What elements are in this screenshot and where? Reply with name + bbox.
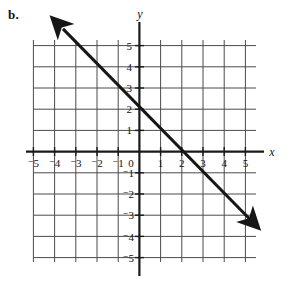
x-tick-label: 5	[243, 157, 249, 169]
x-axis-label: x	[268, 145, 275, 159]
x-tick-label: 4	[221, 157, 227, 169]
x-tick-label: ⁻3	[70, 157, 82, 169]
y-tick-label: ⁻5	[123, 252, 135, 264]
y-tick-label: ⁻4	[123, 231, 135, 243]
y-tick-label: ⁻1	[123, 167, 134, 179]
y-tick-label: ⁻3	[123, 209, 135, 221]
coordinate-plane-svg: ⁻5 ⁻4 ⁻3 ⁻2 ⁻1 1 2 3 4 5 0 5 4 3 2 1 ⁻1 …	[0, 0, 294, 288]
x-tick-label: 3	[200, 157, 206, 169]
x-tick-label: ⁻2	[91, 157, 102, 169]
y-tick-label: 5	[127, 40, 133, 52]
y-tick-label: 1	[127, 124, 133, 136]
part-label: b.	[8, 8, 19, 22]
x-tick-label: 2	[179, 157, 185, 169]
x-tick-labels: ⁻5 ⁻4 ⁻3 ⁻2 ⁻1 1 2 3 4 5	[28, 157, 249, 169]
y-tick-label: 2	[127, 103, 133, 115]
x-tick-label: ⁻4	[49, 157, 61, 169]
y-tick-label: 3	[127, 82, 133, 94]
y-axis-label: y	[136, 7, 143, 21]
x-tick-label: 1	[158, 157, 164, 169]
y-tick-label: 4	[127, 61, 133, 73]
axes	[26, 22, 264, 276]
graph-figure: b.	[0, 0, 294, 288]
x-tick-label: ⁻5	[28, 157, 40, 169]
y-tick-label: ⁻2	[123, 188, 134, 200]
